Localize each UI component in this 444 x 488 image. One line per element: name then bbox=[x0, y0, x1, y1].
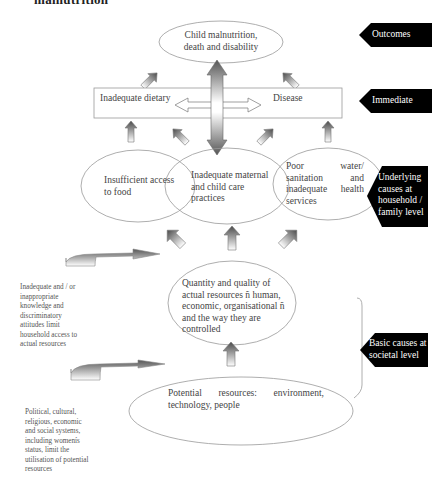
food-access-label: Insufficient access to food bbox=[104, 175, 176, 198]
arrow-care-to-dietary bbox=[169, 125, 192, 148]
potential-resources-label: Potential resources: environment, techno… bbox=[168, 388, 324, 411]
immediate-dietary-label: Inadequate dietary bbox=[100, 93, 190, 105]
immediate-disease-label: Disease bbox=[273, 93, 333, 105]
arrow-care-to-disease bbox=[255, 125, 278, 148]
tag-underlying: Underlying causes at household / family … bbox=[378, 172, 430, 218]
tag-immediate: Immediate bbox=[372, 95, 430, 107]
care-practices-label: Inadequate maternal and child care pract… bbox=[191, 170, 279, 205]
arrow-water-to-disease bbox=[322, 121, 334, 142]
arrow-food-to-dietary bbox=[125, 121, 137, 142]
curved-arrow-knowledge bbox=[66, 249, 160, 266]
curved-arrow-systems bbox=[71, 360, 165, 380]
basic-causes-bracket bbox=[354, 298, 362, 398]
tag-outcomes: Outcomes bbox=[372, 29, 430, 41]
arrow-resources-to-food bbox=[162, 225, 189, 252]
arrow-resources-to-water bbox=[276, 225, 303, 252]
arrow-resources-to-care bbox=[224, 226, 240, 250]
water-sanitation-label: Poor water/ sanitation and inadequate he… bbox=[286, 161, 364, 207]
arrow-potential-to-actual bbox=[223, 342, 239, 366]
tag-basic: Basic causes at societal level bbox=[369, 338, 431, 361]
outcome-label: Child malnutrition, death and disability bbox=[178, 30, 264, 53]
actual-resources-label: Quantity and quality of actual resources… bbox=[182, 278, 286, 336]
note-knowledge: Inadequate and / or inappropriate knowle… bbox=[20, 283, 86, 350]
note-systems: Political, cultural, religious, economic… bbox=[25, 408, 91, 475]
